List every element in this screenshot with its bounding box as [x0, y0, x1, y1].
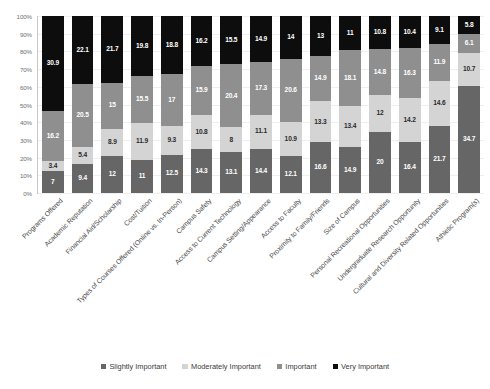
- bar-segment-value: 8: [229, 137, 233, 144]
- bar-segment-value: 16.6: [314, 164, 326, 171]
- y-axis-tick-label: 40%: [20, 119, 32, 126]
- bar-segment: 16.2: [191, 16, 213, 66]
- bar-segment-value: 11: [139, 173, 146, 180]
- bar-segment: 11: [131, 160, 153, 193]
- bar-segment-value: 14.9: [314, 75, 326, 82]
- bar-segment: 11.9: [131, 123, 153, 159]
- bar-segment-value: 13: [317, 33, 324, 40]
- bar-segment: 12.5: [161, 155, 183, 193]
- bar-segment: 30.9: [42, 16, 64, 111]
- bar-segment: 13.1: [220, 152, 242, 193]
- bar-segment: 10.7: [458, 53, 480, 86]
- bar-segment-value: 16.3: [404, 70, 416, 77]
- bar-segment-value: 18.8: [166, 42, 178, 49]
- bar-column: 14.310.815.916.2: [191, 16, 213, 193]
- bar-segment: 10.9: [280, 122, 302, 155]
- bar-segment-value: 9.4: [78, 175, 87, 182]
- bar-segment: 12: [101, 156, 123, 193]
- bar-segment: 14: [280, 16, 302, 59]
- bar-segment: 13: [310, 16, 332, 56]
- bar-segment: 17.3: [250, 62, 272, 115]
- bar-segment-value: 14.6: [433, 100, 445, 107]
- bar-segment-value: 3.4: [48, 163, 57, 170]
- y-axis-tick-label: 30%: [20, 136, 32, 143]
- bar-segment: 9.4: [72, 164, 94, 193]
- bar-segment-value: 16.2: [195, 38, 207, 45]
- legend-swatch-icon: [182, 364, 188, 370]
- x-axis-label: Personal Recreational Opportunities: [309, 197, 391, 279]
- x-axis-label: Proximity to Family/Friends: [268, 197, 331, 260]
- bar-segment-value: 10.8: [374, 29, 386, 36]
- bar-segment: 16.2: [42, 111, 64, 161]
- bar-segment: 8: [220, 127, 242, 152]
- bar-segment-value: 14.2: [404, 117, 416, 124]
- bar-segment-value: 14: [287, 34, 294, 41]
- bar-segment-value: 12: [376, 110, 383, 117]
- y-axis-tick-label: 100%: [17, 13, 32, 20]
- bar-segment-value: 5.4: [78, 152, 87, 159]
- bar-segment-value: 20.4: [225, 93, 237, 100]
- bar-segment: 13.3: [310, 101, 332, 142]
- bar-segment-value: 20.5: [76, 112, 88, 119]
- bar-segment-value: 5.8: [465, 22, 474, 29]
- bar-segment: 16.4: [399, 142, 421, 193]
- legend-label: Very Important: [341, 362, 389, 371]
- bar-segment: 20.4: [220, 64, 242, 127]
- bar-segment-value: 21.7: [433, 156, 445, 163]
- bar-segment: 14.2: [399, 98, 421, 142]
- bar-segment-value: 20: [376, 159, 383, 166]
- bar-segment: 15.5: [131, 76, 153, 123]
- legend-swatch-icon: [101, 364, 107, 370]
- bar-segment: 13.4: [339, 106, 361, 147]
- chart-legend: Slightly ImportantModerately ImportantIm…: [0, 362, 490, 371]
- bar-segment: 9.1: [429, 16, 451, 44]
- x-axis-label: Cost/Tuition: [123, 197, 153, 227]
- bar-segment-value: 10.9: [285, 136, 297, 143]
- bar-segment: 7: [42, 171, 64, 193]
- x-axis-label: Access to Faculty: [259, 197, 302, 240]
- bar-segment-value: 15.5: [136, 96, 148, 103]
- gridline: [38, 193, 484, 194]
- legend-item[interactable]: Important: [277, 362, 317, 371]
- bar-segment: 15.9: [191, 66, 213, 115]
- legend-label: Important: [285, 362, 316, 371]
- bar-segment-value: 16.2: [47, 133, 59, 140]
- bar-segment-value: 12.1: [285, 171, 297, 178]
- bar-segment: 20.5: [72, 84, 94, 147]
- bar-segment-value: 14.8: [374, 69, 386, 76]
- bar-segment: 20: [369, 132, 391, 193]
- bar-segment: 19.8: [131, 16, 153, 76]
- legend-item[interactable]: Moderately Important: [182, 362, 260, 371]
- bar-column: 12.59.31718.8: [161, 16, 183, 193]
- legend-item[interactable]: Very Important: [333, 362, 390, 371]
- bar-segment-value: 7: [51, 179, 55, 186]
- bar-segment-value: 14.4: [255, 168, 267, 175]
- bar-segment-value: 11.1: [255, 128, 267, 135]
- bar-segment: 14.9: [310, 56, 332, 102]
- bar-segment-value: 21.7: [106, 46, 118, 53]
- bar-segment: 10.8: [191, 115, 213, 148]
- bar-column: 128.91521.7: [101, 16, 123, 193]
- bar-segment: 21.7: [101, 16, 123, 83]
- bar-segment: 3.4: [42, 161, 64, 171]
- bar-segment-value: 8.9: [108, 139, 117, 146]
- legend-item[interactable]: Slightly Important: [101, 362, 167, 371]
- y-axis-tick-label: 20%: [20, 154, 32, 161]
- y-axis-tick-label: 0%: [23, 190, 32, 197]
- bar-segment-value: 13.4: [344, 123, 356, 130]
- bar-segment: 10.4: [399, 16, 421, 48]
- bar-segment: 15: [101, 83, 123, 129]
- bar-segment-value: 14.9: [344, 167, 356, 174]
- legend-label: Slightly Important: [109, 362, 166, 371]
- bar-segment: 5.4: [72, 147, 94, 164]
- bar-segment-value: 13.3: [314, 119, 326, 126]
- bar-segment-value: 6.1: [465, 40, 474, 47]
- legend-swatch-icon: [333, 364, 339, 370]
- bar-segment-value: 17: [168, 97, 175, 104]
- y-axis-tick-label: 80%: [20, 48, 32, 55]
- x-axis-label: Programs Offered: [21, 197, 64, 240]
- bar-segment: 14.8: [369, 49, 391, 94]
- bar-segment-value: 34.7: [463, 136, 475, 143]
- bar-segment: 6.1: [458, 34, 480, 53]
- bar-segment: 15.5: [220, 16, 242, 64]
